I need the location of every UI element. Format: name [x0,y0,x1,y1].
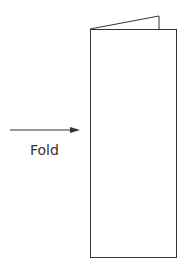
fold-diagram [0,0,184,270]
folded-panel [91,30,177,258]
arrow-head-icon [70,127,80,133]
fold-flap [90,16,159,29]
fold-label: Fold [30,142,59,158]
